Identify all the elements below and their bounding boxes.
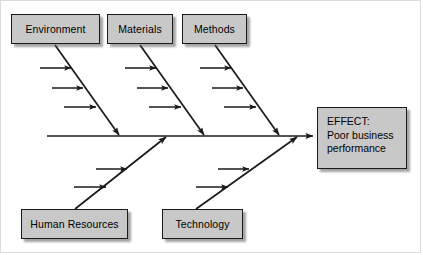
bone-line-methods bbox=[215, 45, 279, 135]
fishbone-diagram: Environment Materials Methods Human Reso… bbox=[0, 0, 423, 255]
cause-label-materials: Materials bbox=[118, 24, 162, 35]
cause-box-materials[interactable]: Materials bbox=[107, 14, 173, 44]
cause-box-human-resources[interactable]: Human Resources bbox=[21, 209, 128, 239]
bone-line-materials bbox=[140, 45, 204, 135]
cause-label-human-resources: Human Resources bbox=[30, 219, 118, 230]
cause-label-environment: Environment bbox=[25, 24, 85, 35]
cause-box-methods[interactable]: Methods bbox=[182, 14, 247, 44]
bone-line-environment bbox=[55, 45, 119, 135]
cause-box-technology[interactable]: Technology bbox=[162, 209, 243, 239]
effect-line-2: Poor business bbox=[327, 129, 394, 143]
cause-label-technology: Technology bbox=[175, 219, 229, 230]
cause-label-methods: Methods bbox=[194, 24, 235, 35]
bone-line-human-resources bbox=[75, 137, 166, 209]
cause-box-environment[interactable]: Environment bbox=[11, 14, 100, 44]
bone-line-technology bbox=[196, 137, 297, 209]
effect-line-title: EFFECT: bbox=[327, 115, 394, 129]
effect-box[interactable]: EFFECT: Poor business performance bbox=[317, 107, 407, 169]
effect-text-block: EFFECT: Poor business performance bbox=[327, 115, 394, 156]
effect-line-3: performance bbox=[327, 142, 394, 156]
